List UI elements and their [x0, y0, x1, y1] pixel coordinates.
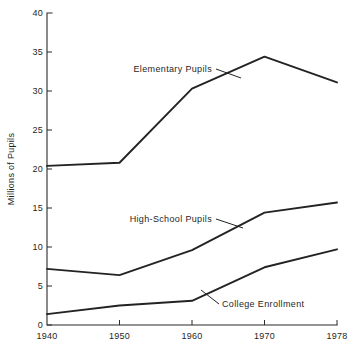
x-axis-tick-label: 1950	[109, 331, 130, 341]
y-axis-tick-label: 40	[32, 8, 43, 18]
series-label-high-school-pupils: High-School Pupils	[130, 214, 212, 224]
y-axis-tick-label: 10	[32, 242, 43, 252]
y-axis-tick-label: 35	[32, 47, 43, 57]
x-axis-tick-label: 1940	[36, 331, 57, 341]
y-axis-tick-label: 20	[32, 164, 43, 174]
y-axis-title: Millions of Pupils	[6, 133, 16, 206]
x-axis-tick-label: 1970	[254, 331, 275, 341]
chart-svg: 0510152025303540 19401950196019701978 Mi…	[0, 0, 352, 361]
series-label-college-enrollment: College Enrollment	[222, 299, 304, 309]
line-chart-figure: 0510152025303540 19401950196019701978 Mi…	[0, 0, 352, 361]
x-axis-tick-label: 1978	[326, 331, 347, 341]
x-axis-tick-label: 1960	[181, 331, 202, 341]
series-label-elementary-pupils: Elementary Pupils	[134, 64, 213, 74]
y-axis-tick-label: 30	[32, 86, 43, 96]
y-axis-tick-label: 0	[38, 320, 43, 330]
y-axis-tick-label: 5	[38, 281, 43, 291]
y-axis-tick-label: 15	[32, 203, 43, 213]
y-axis-tick-label: 25	[32, 125, 43, 135]
